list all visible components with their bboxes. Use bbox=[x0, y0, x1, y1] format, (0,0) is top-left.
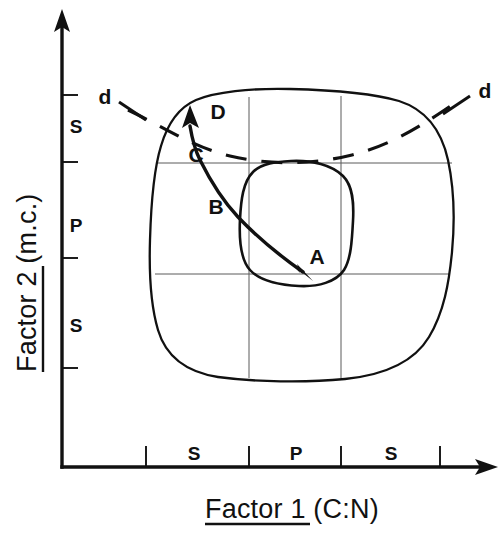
trajectory-label-C: C bbox=[188, 143, 203, 166]
dashed-label-right: d bbox=[479, 79, 492, 102]
trajectory-label-B: B bbox=[208, 195, 223, 218]
x-axis-tick-label-1: P bbox=[290, 443, 303, 464]
y-axis-tick-label-1: P bbox=[70, 215, 83, 236]
dashed-label-leader-left bbox=[119, 102, 146, 120]
x-axis-title: Factor 1 (C:N) bbox=[205, 494, 379, 524]
y-axis-title: Factor 2 (m.c.) bbox=[12, 193, 42, 372]
x-axis-title-main: Factor 1 bbox=[205, 494, 306, 524]
x-axis-title-group: Factor 1 (C:N) bbox=[205, 494, 379, 524]
x-axis: S P S bbox=[62, 443, 498, 475]
y-axis-title-group: Factor 2 (m.c.) bbox=[12, 193, 43, 372]
y-axis-tick-label-2: S bbox=[70, 315, 83, 336]
y-axis: S P S bbox=[54, 9, 83, 467]
y-axis-title-paren: (m.c.) bbox=[12, 193, 42, 271]
x-axis-tick-label-2: S bbox=[385, 443, 398, 464]
dashed-label-leader-right bbox=[443, 96, 470, 114]
x-axis-title-paren: (C:N) bbox=[306, 494, 379, 524]
dashed-label-left: d bbox=[99, 85, 112, 108]
trajectory-label-A: A bbox=[309, 245, 324, 268]
y-axis-tick-label-0: S bbox=[70, 116, 83, 137]
trajectory-label-D: D bbox=[210, 100, 225, 123]
tolerance-grid bbox=[155, 96, 452, 378]
diagram-root: d d A B C D S P S bbox=[0, 0, 503, 536]
y-axis-title-main: Factor 2 bbox=[12, 271, 42, 372]
scientific-diagram-figure: d d A B C D S P S bbox=[0, 0, 503, 536]
x-axis-tick-label-0: S bbox=[188, 443, 201, 464]
